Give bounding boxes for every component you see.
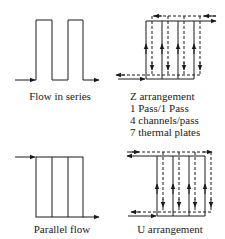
u-arrangement-label: U arrangement xyxy=(137,223,203,235)
u-arrangement-diagram xyxy=(127,152,212,216)
series-label: Flow in series xyxy=(29,90,91,102)
z-detail-passes: 1 Pass/1 Pass xyxy=(130,102,189,114)
z-detail-channels: 4 channels/pass xyxy=(130,114,199,126)
series-flow-diagram xyxy=(15,20,99,80)
serpentine-path xyxy=(35,20,83,80)
z-detail-plates: 7 thermal plates xyxy=(130,126,200,138)
z-arrangement-label: Z arrangement xyxy=(130,90,194,102)
z-arrangement-diagram xyxy=(116,16,216,79)
parallel-label: Parallel flow xyxy=(34,223,91,235)
parallel-flow-diagram xyxy=(15,157,99,217)
